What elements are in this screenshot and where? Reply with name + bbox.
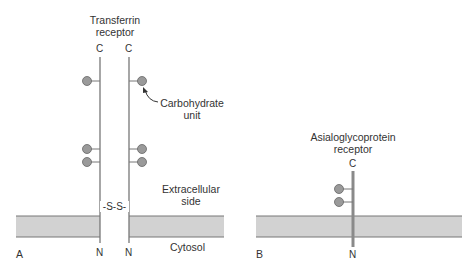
carbohydrate-arrowhead — [143, 87, 148, 93]
carbohydrate-unit — [83, 158, 92, 167]
transferrin-title: Transferrin receptor — [85, 14, 145, 38]
membrane-a-right — [129, 216, 224, 237]
membrane-b — [256, 216, 462, 237]
carbohydrate-unit — [335, 198, 344, 207]
label-line: Carbohydrate — [156, 97, 228, 109]
label-line: unit — [156, 109, 228, 121]
carbohydrate-unit — [138, 77, 147, 86]
panel-letter-b: B — [256, 248, 263, 260]
terminal-c-left: C — [96, 43, 103, 54]
diagram-canvas — [0, 0, 475, 268]
title-line: Transferrin — [85, 14, 145, 26]
title-line: Asialoglycoprotein — [305, 131, 401, 143]
label-line: side — [156, 195, 226, 207]
carbohydrate-unit — [138, 145, 147, 154]
carbohydrate-unit — [335, 185, 344, 194]
terminal-c-right: C — [125, 43, 132, 54]
terminal-n-left: N — [96, 247, 103, 258]
disulfide-bond-label: -S-S- — [100, 201, 129, 212]
asialoglycoprotein-title: Asialoglycoprotein receptor — [305, 131, 401, 155]
terminal-n-b: N — [349, 249, 356, 260]
terminal-c-b: C — [349, 158, 356, 169]
cytosol-label: Cytosol — [170, 241, 205, 253]
membrane-a-left — [16, 216, 100, 237]
label-line: Extracellular — [156, 183, 226, 195]
extracellular-side-label: Extracellular side — [156, 183, 226, 207]
panel-letter-a: A — [16, 248, 23, 260]
carbohydrate-unit — [138, 158, 147, 167]
title-line: receptor — [85, 26, 145, 38]
carbohydrate-unit — [83, 77, 92, 86]
title-line: receptor — [305, 143, 401, 155]
carbohydrate-unit — [83, 145, 92, 154]
terminal-n-right: N — [125, 247, 132, 258]
carbohydrate-label: Carbohydrate unit — [156, 97, 228, 121]
